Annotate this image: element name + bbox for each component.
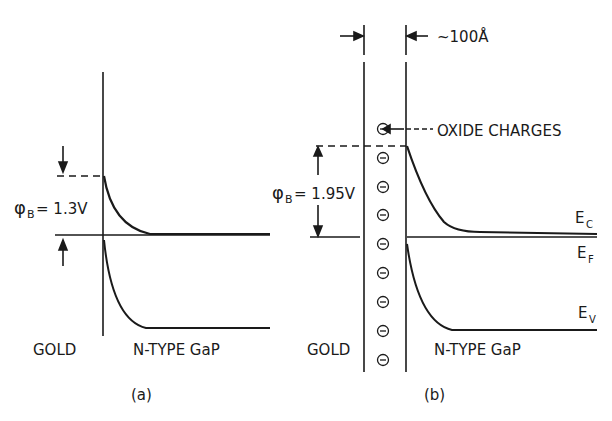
oxide-charges [378, 124, 389, 366]
conduction-band [104, 176, 270, 234]
valence-band [407, 244, 597, 330]
arrow-left-icon [407, 32, 416, 40]
barrier-sub-b: B [285, 193, 293, 206]
barrier-value-a: = 1.3V [36, 200, 88, 218]
caption-a: (a) [131, 386, 152, 404]
arrow-up-icon [314, 147, 322, 156]
ev-sub: V [589, 314, 596, 325]
oxide-thickness-label: ~100Å [437, 27, 489, 46]
semiconductor-label-b: N-TYPE GaP [434, 341, 521, 359]
caption-b: (b) [424, 386, 445, 404]
arrow-right-icon [354, 32, 363, 40]
metal-label-a: GOLD [33, 341, 76, 359]
barrier-symbol-a: φ [14, 197, 26, 218]
metal-label-b: GOLD [307, 341, 350, 359]
valence-band [104, 240, 270, 328]
ev-label: E [578, 304, 587, 322]
band-diagram: φ B = 1.3V GOLD N-TYPE GaP (a) ~100Å OXI… [0, 0, 612, 421]
ec-sub: C [586, 219, 593, 230]
ef-sub: F [588, 254, 594, 265]
semiconductor-label-a: N-TYPE GaP [133, 341, 220, 359]
ec-label: E [575, 209, 584, 227]
oxide-charges-label: OXIDE CHARGES [437, 122, 561, 140]
arrow-down-icon [59, 162, 67, 172]
barrier-value-b: = 1.95V [294, 185, 356, 203]
ef-label: E [577, 244, 586, 262]
conduction-band [407, 146, 597, 234]
barrier-symbol-b: φ [272, 182, 284, 203]
barrier-sub-a: B [27, 208, 35, 221]
arrow-down-icon [314, 226, 322, 236]
arrow-up-icon [59, 240, 67, 250]
